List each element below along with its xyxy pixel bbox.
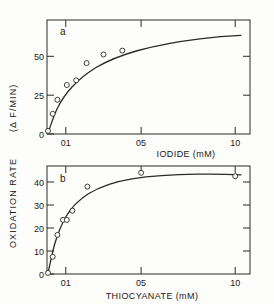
panel-a-ytick-0: 0 [39,130,44,140]
panel-b-ytick-0: 0 [39,270,44,280]
panel-b-x-axis-label: THIOCYANATE (mM) [106,291,199,301]
data-point [46,128,51,133]
panel-a-xtick-01: 01 [61,138,71,148]
data-point [50,254,55,259]
panel-b-letter: b [60,173,66,184]
panel-a-ytick-25: 25 [34,91,44,101]
panel-b-x-ticks-bottom [66,267,235,274]
data-point [64,217,69,222]
data-point [120,48,125,53]
two-panel-saturation-plot: OXIDATION RATE (Δ F/MIN) a 0 25 [0,0,274,304]
panel-b-data-points [46,170,238,275]
panel-a-y-ticks-right [243,56,250,95]
data-point [55,97,60,102]
data-point [55,232,60,237]
data-point [46,270,51,275]
data-point [74,78,79,83]
panel-b-xtick-10: 10 [230,278,240,288]
data-point [84,61,89,66]
figure-container: OXIDATION RATE (Δ F/MIN) a 0 25 [0,0,274,304]
panel-a-x-ticks-top [66,20,235,27]
panel-b-ytick-30: 30 [34,201,44,211]
panel-b-y-ticks-right [243,182,250,251]
panel-a-x-ticks-bottom [66,127,235,134]
panel-b-ytick-10: 10 [34,247,44,257]
panel-b: b 0 10 20 30 40 [34,166,250,301]
panel-b-ytick-20: 20 [34,224,44,234]
panel-a-xtick-05: 05 [136,138,146,148]
panel-b-x-ticks-top [66,166,235,173]
panel-a-letter: a [60,26,66,37]
panel-a-x-axis-label: IODIDE (mM) [157,149,216,159]
data-point [101,52,106,57]
panel-a-xtick-10: 10 [230,138,240,148]
data-point [139,170,144,175]
panel-a: a 0 25 50 [34,20,250,159]
y-axis-label-units: (Δ F/MIN) [8,84,18,132]
panel-b-curve [48,174,241,273]
data-point [50,111,55,116]
data-point [233,174,238,179]
data-point [64,83,69,88]
panel-a-y-ticks-left [47,56,54,134]
data-point [85,184,90,189]
panel-b-frame [47,166,250,274]
panel-a-data-points [46,48,125,133]
panel-b-ytick-40: 40 [34,178,44,188]
data-point [70,208,75,213]
panel-b-xtick-01: 01 [61,278,71,288]
panel-a-ytick-50: 50 [34,52,44,62]
panel-b-xtick-05: 05 [136,278,146,288]
panel-a-curve [48,35,241,133]
y-axis-label-main: OXIDATION RATE [8,158,18,248]
shared-y-axis-label-group: OXIDATION RATE (Δ F/MIN) [8,84,18,248]
